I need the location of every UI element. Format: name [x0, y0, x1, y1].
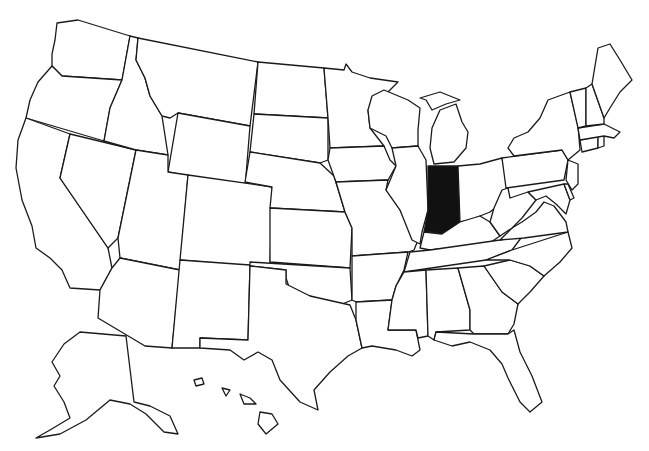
state-alaska[interactable]: [36, 332, 178, 438]
state-iowa[interactable]: [328, 146, 396, 182]
state-north-dakota[interactable]: [254, 62, 328, 118]
state-kansas[interactable]: [270, 208, 352, 268]
state-new-mexico[interactable]: [172, 260, 250, 348]
state-new-york[interactable]: [508, 92, 580, 160]
state-pennsylvania[interactable]: [502, 150, 568, 188]
us-map: [0, 0, 649, 451]
state-hawaii[interactable]: [194, 378, 278, 434]
state-washington[interactable]: [52, 20, 130, 80]
state-michigan[interactable]: [420, 92, 468, 164]
state-rhode-island[interactable]: [598, 136, 604, 148]
state-florida[interactable]: [434, 330, 542, 412]
state-colorado[interactable]: [180, 175, 272, 268]
state-indiana[interactable]: [424, 166, 460, 234]
